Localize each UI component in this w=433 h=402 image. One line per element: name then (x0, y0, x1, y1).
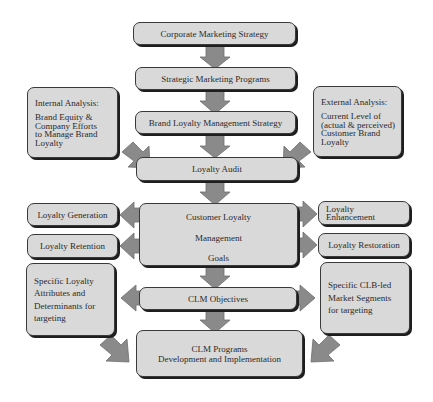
arrow-down-icon (200, 181, 230, 205)
node-loyalty-audit: Loyalty Audit (136, 157, 298, 181)
node-line1: Customer Loyalty (186, 212, 251, 222)
node-label: Loyalty Restoration (328, 240, 400, 250)
node-title: Internal Analysis: (35, 98, 99, 108)
node-body: Current Level of (actual & perceived) Cu… (321, 112, 395, 146)
node-line2: Development and Implementation (158, 354, 281, 364)
node-label: Corporate Marketing Strategy (161, 29, 269, 39)
node-label: Loyalty Enhancement (326, 205, 375, 222)
node-line1: CLM Programs (191, 344, 247, 354)
arrow-diagonal-icon (311, 335, 340, 362)
arrow-down-icon (200, 266, 230, 289)
arrow-down-icon (200, 134, 230, 158)
node-label: Loyalty Audit (192, 164, 242, 174)
node-title: External Analysis: (321, 97, 387, 107)
node-specific-clb-segments: Specific CLB-led Market Segments for tar… (320, 262, 410, 334)
node-corporate-marketing-strategy: Corporate Marketing Strategy (133, 22, 296, 45)
node-label: Specific CLB-led Market Segments for tar… (328, 279, 391, 317)
node-label: Strategic Marketing Programs (161, 74, 269, 84)
node-label: Loyalty Retention (40, 241, 105, 251)
node-internal-analysis: Internal Analysis: Brand Equity & Compan… (27, 87, 118, 158)
node-loyalty-retention: Loyalty Retention (27, 234, 118, 258)
node-external-analysis: External Analysis: Current Level of (act… (313, 86, 402, 157)
node-strategic-marketing-programs: Strategic Marketing Programs (135, 67, 296, 90)
node-label: Loyalty Generation (37, 210, 107, 220)
node-loyalty-enhancement: Loyalty Enhancement (318, 201, 410, 225)
node-clm-programs: CLM Programs Development and Implementat… (136, 330, 303, 377)
node-body: Brand Equity & Company Efforts to Manage… (35, 113, 97, 147)
arrow-diagonal-icon (100, 335, 129, 362)
node-label: CLM Objectives (188, 294, 248, 304)
node-customer-loyalty-management-goals: Customer Loyalty Management Goals (139, 203, 298, 266)
node-brand-loyalty-management-strategy: Brand Loyalty Management Strategy (135, 111, 296, 134)
node-label: Specific Loyalty Attributes and Determin… (34, 275, 95, 325)
node-label: Brand Loyalty Management Strategy (149, 118, 283, 128)
node-line3: Goals (208, 253, 229, 263)
node-line2: Management (195, 233, 242, 243)
node-clm-objectives: CLM Objectives (139, 287, 297, 310)
node-loyalty-restoration: Loyalty Restoration (318, 233, 410, 257)
node-specific-loyalty-attributes: Specific Loyalty Attributes and Determin… (26, 263, 115, 336)
node-loyalty-generation: Loyalty Generation (27, 203, 118, 226)
arrow-down-icon (200, 45, 230, 69)
